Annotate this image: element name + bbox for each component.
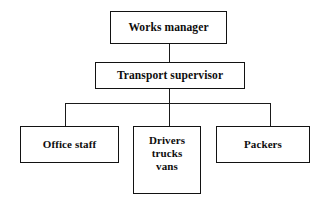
node-packers: Packers — [216, 126, 310, 163]
node-drivers-label-line3: vans — [156, 160, 178, 172]
node-transport-supervisor: Transport supervisor — [95, 62, 245, 89]
node-office-staff: Office staff — [20, 126, 119, 163]
node-works-manager-label: Works manager — [111, 21, 226, 35]
node-drivers-label-line2: trucks — [152, 147, 183, 159]
connector-bus-to-packers — [270, 103, 271, 126]
node-works-manager: Works manager — [110, 11, 227, 44]
connector-horizontal-bus — [65, 103, 271, 104]
connector-bus-to-drivers — [169, 103, 170, 126]
node-office-staff-label: Office staff — [21, 138, 118, 151]
node-transport-supervisor-label: Transport supervisor — [96, 69, 244, 83]
node-packers-label: Packers — [217, 138, 309, 151]
connector-transport-supervisor-to-bus — [169, 89, 170, 103]
node-drivers: Drivers trucks vans — [133, 126, 201, 194]
connector-works-manager-to-transport-supervisor — [169, 44, 170, 62]
connector-bus-to-office-staff — [65, 103, 66, 126]
node-drivers-label-line1: Drivers — [149, 134, 185, 146]
organizational-chart: Works manager Transport supervisor Offic… — [0, 0, 332, 209]
node-drivers-label: Drivers trucks vans — [134, 134, 200, 173]
